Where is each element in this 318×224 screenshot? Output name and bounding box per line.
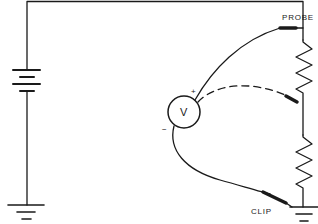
ground-left-icon <box>8 205 44 219</box>
voltmeter-label: V <box>180 106 188 118</box>
probe-label: PROBE <box>282 13 314 22</box>
clip-label: CLIP <box>251 207 272 216</box>
circuit-diagram: PROBE CLIP V + − <box>0 0 318 224</box>
plus-sign: + <box>191 87 196 96</box>
clip-lead <box>173 126 270 194</box>
probe-tip-alt <box>286 96 297 102</box>
resistor-top-icon <box>296 40 312 135</box>
probe-lead-alt <box>198 86 285 102</box>
ground-right-icon <box>290 207 318 221</box>
battery-icon <box>13 70 40 91</box>
resistor-bottom-icon <box>296 135 312 207</box>
minus-sign: − <box>162 125 167 134</box>
clip-tip <box>263 192 286 203</box>
